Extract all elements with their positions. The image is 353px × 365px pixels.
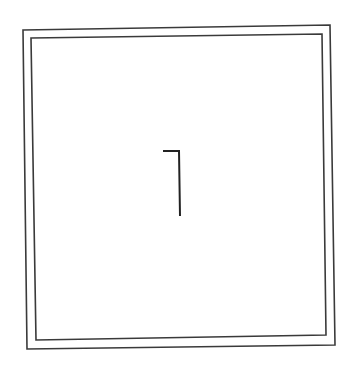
background [0,0,353,365]
diagram-canvas [0,0,353,365]
